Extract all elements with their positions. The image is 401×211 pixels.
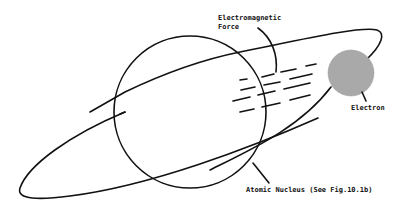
force-lines: [233, 64, 316, 112]
orbit-lower-segment: [210, 87, 331, 170]
atom-diagram: Electromagnetic Force Electron Atomic Nu…: [0, 0, 401, 211]
force-label-line2: Force: [218, 23, 239, 31]
electron-label: Electron: [351, 104, 385, 112]
force-label-line1: Electromagnetic: [218, 14, 281, 22]
force-pointer: [258, 28, 276, 72]
nucleus-pointer: [253, 163, 269, 183]
electron-pointer: [362, 92, 366, 101]
nucleus-label: Atomic Nucleus (See Fig.10.1b): [246, 186, 372, 194]
electron: [328, 50, 374, 96]
force-line: [240, 74, 312, 90]
